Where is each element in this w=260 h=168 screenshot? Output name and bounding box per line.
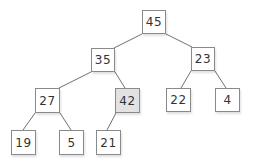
node-value: 4 — [223, 93, 231, 107]
tree-edge-35-42 — [115, 72, 125, 88]
tree-edge-27-19 — [23, 113, 35, 130]
tree-node-4: 4 — [215, 88, 240, 112]
tree-node-42-highlighted: 42 — [115, 88, 140, 113]
node-value: 5 — [67, 136, 75, 150]
tree-edge-23-4 — [215, 71, 226, 88]
tree-node-35: 35 — [91, 48, 115, 72]
node-value: 35 — [95, 53, 111, 67]
node-value: 21 — [100, 136, 116, 150]
tree-node-23: 23 — [191, 47, 215, 71]
node-value: 45 — [146, 15, 162, 29]
tree-edges — [0, 0, 260, 168]
tree-edge-45-35 — [114, 34, 142, 48]
tree-edge-35-27 — [59, 72, 91, 88]
node-value: 22 — [170, 93, 186, 107]
tree-edge-42-21 — [107, 113, 116, 130]
tree-node-5: 5 — [59, 130, 84, 155]
tree-node-22: 22 — [166, 88, 191, 112]
node-value: 23 — [195, 52, 211, 66]
tree-node-45: 45 — [142, 10, 166, 34]
tree-node-21: 21 — [96, 130, 121, 155]
node-value: 19 — [15, 136, 31, 150]
tree-edge-23-22 — [181, 71, 191, 88]
tree-edge-27-5 — [60, 113, 71, 130]
binary-tree-diagram: 453523274222419521 — [0, 0, 260, 168]
node-value: 42 — [119, 94, 135, 108]
tree-edge-45-23 — [166, 34, 192, 47]
tree-node-19: 19 — [11, 130, 36, 155]
tree-node-27: 27 — [35, 88, 60, 113]
node-value: 27 — [39, 94, 55, 108]
